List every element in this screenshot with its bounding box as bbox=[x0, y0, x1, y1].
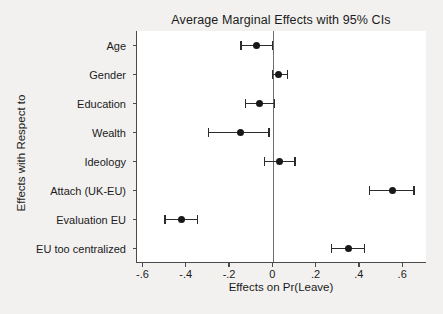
point-estimate-marker bbox=[275, 71, 282, 78]
point-estimate-marker bbox=[256, 100, 263, 107]
y-axis-tick-label: Age bbox=[106, 40, 126, 52]
x-axis-tick bbox=[228, 263, 229, 267]
ci-cap-lower bbox=[240, 41, 241, 50]
ci-cap-upper bbox=[197, 215, 198, 224]
chart-figure: Average Marginal Effects with 95% CIs Ef… bbox=[0, 0, 443, 314]
y-axis-tick-label: Wealth bbox=[92, 127, 126, 139]
point-estimate-marker bbox=[345, 245, 352, 252]
ci-cap-upper bbox=[287, 70, 288, 79]
x-axis-tick bbox=[272, 263, 273, 267]
x-axis-tick bbox=[315, 263, 316, 267]
y-axis-tick-labels: AgeGenderEducationWealthIdeologyAttach (… bbox=[0, 31, 132, 263]
x-axis-title: Effects on Pr(Leave) bbox=[136, 281, 426, 293]
point-estimate-marker bbox=[178, 216, 185, 223]
plot-area bbox=[136, 31, 426, 263]
ci-cap-upper bbox=[274, 99, 275, 108]
y-axis-tick bbox=[133, 248, 137, 249]
ci-cap-upper bbox=[364, 244, 365, 253]
y-axis-tick bbox=[133, 161, 137, 162]
ci-cap-lower bbox=[164, 215, 165, 224]
y-axis-tick-label: EU too centralized bbox=[36, 243, 126, 255]
ci-cap-lower bbox=[369, 186, 370, 195]
ci-cap-lower bbox=[264, 157, 265, 166]
y-axis-tick-label: Attach (UK-EU) bbox=[50, 185, 126, 197]
x-axis-tick bbox=[142, 263, 143, 267]
ci-cap-lower bbox=[208, 128, 209, 137]
y-axis-tick bbox=[133, 190, 137, 191]
x-axis-tick bbox=[402, 263, 403, 267]
x-axis-tick bbox=[358, 263, 359, 267]
y-axis-tick bbox=[133, 132, 137, 133]
x-axis-tick-label: 0 bbox=[269, 268, 275, 280]
point-estimate-marker bbox=[276, 158, 283, 165]
x-axis-tick-label: .6 bbox=[398, 268, 407, 280]
x-axis-tick bbox=[185, 263, 186, 267]
x-axis-tick-label: .2 bbox=[311, 268, 320, 280]
zero-reference-line bbox=[273, 31, 274, 262]
y-axis-tick-label: Education bbox=[77, 98, 126, 110]
y-axis-tick bbox=[133, 103, 137, 104]
point-estimate-marker bbox=[253, 42, 260, 49]
x-axis-tick-label: -.6 bbox=[136, 268, 149, 280]
ci-cap-lower bbox=[272, 70, 273, 79]
ci-cap-lower bbox=[245, 99, 246, 108]
y-axis-tick bbox=[133, 45, 137, 46]
y-axis-tick-label: Gender bbox=[89, 69, 126, 81]
ci-cap-upper bbox=[268, 128, 269, 137]
y-axis-tick-label: Evaluation EU bbox=[56, 214, 126, 226]
x-axis-tick-label: .4 bbox=[354, 268, 363, 280]
ci-cap-upper bbox=[294, 157, 295, 166]
y-axis-tick bbox=[133, 74, 137, 75]
x-axis-tick-label: -.4 bbox=[179, 268, 192, 280]
ci-cap-upper bbox=[272, 41, 273, 50]
y-axis-tick bbox=[133, 219, 137, 220]
chart-title: Average Marginal Effects with 95% CIs bbox=[136, 13, 426, 27]
point-estimate-marker bbox=[237, 129, 244, 136]
x-axis-tick-label: -.2 bbox=[223, 268, 236, 280]
ci-cap-lower bbox=[331, 244, 332, 253]
ci-cap-upper bbox=[413, 186, 414, 195]
y-axis-tick-label: Ideology bbox=[84, 156, 126, 168]
point-estimate-marker bbox=[389, 187, 396, 194]
